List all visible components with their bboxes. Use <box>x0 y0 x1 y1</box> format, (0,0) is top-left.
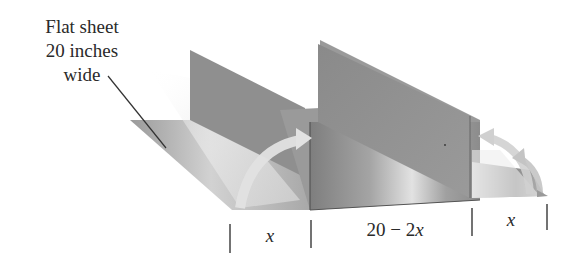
callout-line-1: Flat sheet <box>45 16 119 37</box>
callout-leader-line <box>108 76 166 148</box>
callout-line-2: 20 inches <box>46 40 118 61</box>
callout-line-3: wide <box>64 64 101 85</box>
gutter-folding-diagram: Flat sheet 20 inches wide x 20 − 2x x <box>0 0 572 261</box>
dimension-left-label: x <box>265 225 275 246</box>
dimension-right-label: x <box>506 209 516 230</box>
dimension-middle-label: 20 − 2x <box>366 219 424 240</box>
